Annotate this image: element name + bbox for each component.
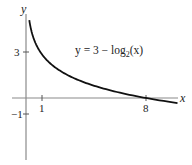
x-axis-label: x [179,91,186,105]
equation-label: y = 3 − log2(x) [75,44,143,59]
function-curve [29,20,177,103]
x-tick-label-1: 1 [39,102,45,114]
function-plot: y x 1 8 3 −1 y = 3 − log2(x) [0,0,192,165]
y-tick-label-3: 3 [14,46,20,58]
x-tick-label-8: 8 [143,102,149,114]
y-axis-label: y [20,2,27,16]
y-tick-label-neg1: −1 [11,108,23,120]
